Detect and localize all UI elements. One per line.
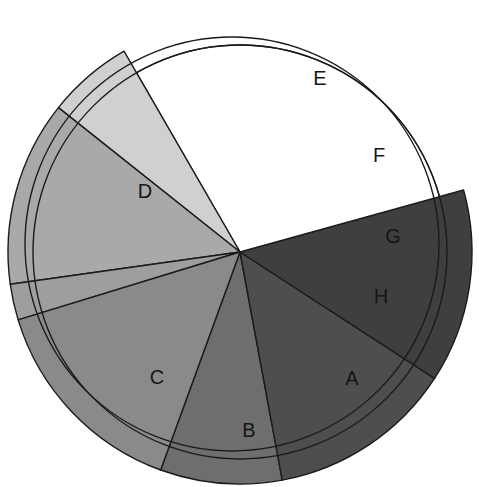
pie-slice-label-c: C <box>150 366 164 388</box>
pie-slice-label-f: F <box>373 144 385 166</box>
pie-slice-label-a: A <box>345 367 359 389</box>
pie-chart-canvas: ABCDEFGH <box>0 0 479 487</box>
pie-slice-label-g: G <box>385 225 401 247</box>
pie-chart-figure: ABCDEFGH <box>0 0 479 487</box>
pie-slice-label-b: B <box>242 419 255 441</box>
pie-slice-label-e: E <box>313 67 326 89</box>
pie-slice-label-h: H <box>374 285 388 307</box>
pie-slice-label-d: D <box>138 180 152 202</box>
pie-slices-group <box>8 45 472 484</box>
